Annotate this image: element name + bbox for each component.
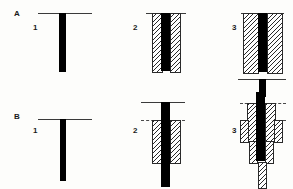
step-label-b3: 3: [232, 127, 236, 135]
black-bar-a2: [161, 13, 170, 71]
black-bar-b2: [161, 102, 170, 187]
hatched-block-b3-mid-right: [274, 120, 283, 143]
step-label-a2: 2: [133, 24, 137, 32]
hatched-block-b2-right: [170, 120, 181, 164]
hatched-block-b3-bottom: [258, 162, 267, 189]
hatched-block-a3-left: [243, 13, 259, 74]
hatched-block-a2-right: [170, 13, 181, 73]
black-bar-a3-upper: [258, 13, 267, 72]
step-label-a3: 3: [232, 24, 236, 32]
hatched-block-b3-mid-left: [240, 120, 249, 143]
hatched-block-b3-low-right: [265, 141, 274, 164]
black-bar-b3: [256, 92, 265, 161]
row-label-b: B: [14, 113, 20, 121]
black-bar-b1: [60, 119, 66, 181]
figure-canvas: A 1 2 3 B 1 2 3: [0, 0, 293, 189]
row-label-a: A: [14, 10, 20, 18]
hatched-block-a3-right: [267, 13, 283, 74]
step-label-a1: 1: [33, 24, 37, 32]
step-label-b2: 2: [133, 127, 137, 135]
step-label-b1: 1: [33, 127, 37, 135]
black-bar-a1: [59, 13, 66, 72]
